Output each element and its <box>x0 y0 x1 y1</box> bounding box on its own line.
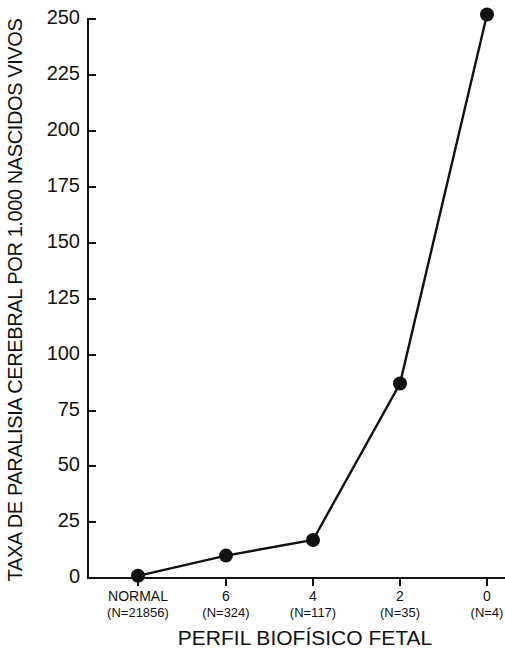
line-chart: TAXA DE PARALISIA CEREBRAL POR 1.000 NAS… <box>0 0 505 652</box>
y-tick-label-50: 50 <box>58 453 80 475</box>
x-axis-title: PERFIL BIOFÍSICO FETAL <box>178 626 432 649</box>
y-tick-label-125: 125 <box>47 286 80 308</box>
data-point-normal <box>131 569 145 583</box>
y-tick-label-225: 225 <box>47 62 80 84</box>
x-tick-label-6: 6 <box>222 588 230 604</box>
data-point-4 <box>306 533 320 547</box>
y-tick-label-0: 0 <box>69 565 80 587</box>
x-tick-label-0: 0 <box>483 588 491 604</box>
y-tick-label-100: 100 <box>47 342 80 364</box>
x-sublabel-6: (N=324) <box>202 605 249 620</box>
x-tick-label-2: 2 <box>396 588 404 604</box>
data-point-0 <box>480 8 494 22</box>
y-tick-label-150: 150 <box>47 230 80 252</box>
x-tick-label-4: 4 <box>309 588 317 604</box>
data-point-6 <box>219 549 233 563</box>
y-tick-label-25: 25 <box>58 509 80 531</box>
x-tick-label-normal: NORMAL <box>108 588 168 604</box>
x-sublabel-normal: (N=21856) <box>107 605 169 620</box>
y-tick-label-175: 175 <box>47 174 80 196</box>
x-sublabel-4: (N=117) <box>290 605 336 620</box>
y-tick-label-75: 75 <box>58 398 80 420</box>
x-sublabel-0: (N=4) <box>471 605 504 620</box>
y-tick-label-200: 200 <box>47 118 80 140</box>
chart-figure: TAXA DE PARALISIA CEREBRAL POR 1.000 NAS… <box>0 0 505 652</box>
y-axis-title: TAXA DE PARALISIA CEREBRAL POR 1.000 NAS… <box>4 19 26 582</box>
y-tick-label-250: 250 <box>47 6 80 28</box>
chart-background <box>0 0 505 652</box>
x-sublabel-2: (N=35) <box>380 605 420 620</box>
data-point-2 <box>393 377 407 391</box>
